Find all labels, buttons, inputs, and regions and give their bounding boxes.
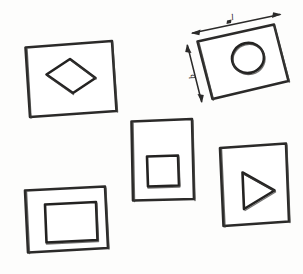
- plate-bottom-left-rectangle-cutout: [45, 202, 98, 243]
- plate-top-left: [26, 41, 118, 118]
- plate-bottom-left: [25, 187, 109, 254]
- plate-bottom-right: [220, 144, 290, 228]
- dimension-height-arrowhead-top: [185, 44, 191, 53]
- plate-center-square-cutout: [147, 156, 179, 187]
- dimension-height-arrowhead-bottom: [198, 94, 204, 103]
- plate-top-right: l b: [185, 12, 289, 103]
- sketch-figure: l b: [0, 0, 303, 274]
- plate-center: [132, 119, 196, 202]
- sketch-canvas: l b: [0, 0, 303, 274]
- dimension-height-label: b: [187, 73, 198, 80]
- dimension-length-tick: [227, 20, 232, 25]
